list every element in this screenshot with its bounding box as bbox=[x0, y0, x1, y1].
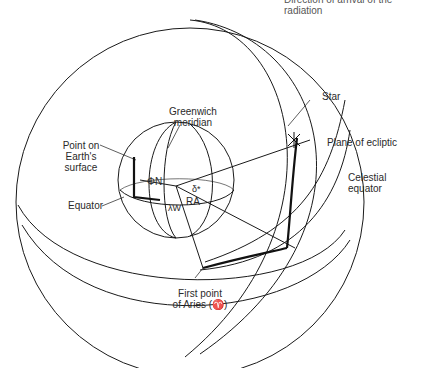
greenwich-label-1: Greenwich bbox=[163, 106, 223, 117]
point-label-2: Earth's bbox=[56, 151, 106, 162]
phi-n-label: ΦN bbox=[147, 176, 162, 187]
aries-label-2: of Aries (♈) bbox=[165, 299, 235, 310]
point-label-3: surface bbox=[56, 162, 106, 173]
star-label: Star bbox=[322, 91, 340, 102]
point-label-1: Point on bbox=[56, 140, 106, 151]
greenwich-label-2: meridian bbox=[163, 117, 223, 128]
delta-star-label: δ* bbox=[192, 184, 201, 195]
aries-label-1: First point bbox=[165, 288, 235, 299]
celestial-equator-label-1: Celestial bbox=[348, 172, 386, 183]
equator-label: Equator bbox=[68, 200, 103, 211]
earth-sphere bbox=[118, 122, 234, 238]
ecliptic-label: Plane of ecliptic bbox=[327, 137, 397, 148]
celestial-equator-label-2: equator bbox=[348, 183, 382, 194]
lambda-w-label: λW bbox=[168, 203, 181, 214]
ra-label: RA bbox=[186, 196, 200, 207]
